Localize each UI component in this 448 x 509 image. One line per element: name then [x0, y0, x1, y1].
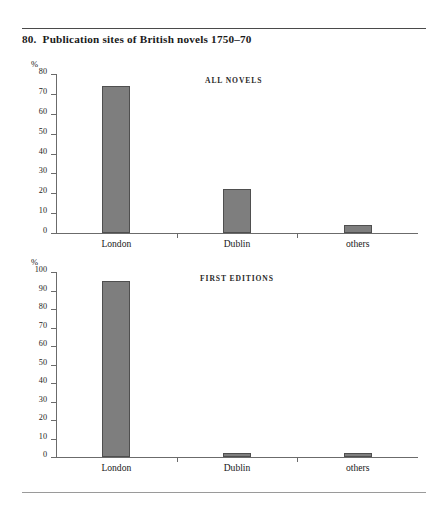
y-tick: 0	[51, 457, 56, 458]
bar-london	[102, 86, 130, 233]
x-tick-label-others: others	[346, 463, 369, 473]
bar-dublin	[223, 189, 251, 233]
figure-title: Publication sites of British novels 1750…	[43, 33, 252, 45]
chart-all-novels: % ALL NOVELS 01020304050607080LondonDubl…	[0, 60, 448, 240]
y-axis-first	[56, 272, 57, 458]
y-tick: 70	[51, 94, 56, 95]
figure-page: 80.Publication sites of British novels 1…	[0, 0, 448, 509]
y-tick: 40	[51, 383, 56, 384]
y-tick-label: 20	[39, 187, 47, 195]
y-tick: 50	[51, 134, 56, 135]
y-tick: 70	[51, 328, 56, 329]
header-divider	[22, 28, 426, 29]
bar-others	[344, 453, 372, 457]
figure-caption: 80.Publication sites of British novels 1…	[22, 33, 426, 45]
y-tick-label: 30	[39, 167, 47, 175]
y-tick-label: 80	[39, 303, 47, 311]
y-tick-label: 30	[39, 396, 47, 404]
x-tick	[297, 234, 298, 238]
bar-london	[102, 281, 130, 457]
y-tick-label: 100	[35, 266, 47, 274]
x-tick	[177, 234, 178, 238]
y-tick: 60	[51, 114, 56, 115]
y-tick-label: 60	[39, 108, 47, 116]
y-tick-label: 10	[39, 433, 47, 441]
y-tick-label: 90	[39, 285, 47, 293]
y-tick-label: 10	[39, 207, 47, 215]
x-tick-label-london: London	[101, 463, 131, 473]
x-tick	[297, 458, 298, 462]
y-tick-label: 50	[39, 359, 47, 367]
y-tick: 90	[51, 291, 56, 292]
bar-others	[344, 225, 372, 233]
y-tick-label: 0	[43, 451, 47, 459]
y-tick-label: 60	[39, 340, 47, 348]
y-tick: 80	[51, 309, 56, 310]
bar-dublin	[223, 453, 251, 457]
y-tick: 30	[51, 402, 56, 403]
y-tick: 0	[51, 233, 56, 234]
y-tick: 100	[51, 272, 56, 273]
y-tick: 20	[51, 420, 56, 421]
y-tick: 80	[51, 74, 56, 75]
x-tick-label-london: London	[101, 239, 131, 249]
plot-area-all: 01020304050607080LondonDublinothers	[56, 74, 418, 234]
y-tick: 50	[51, 365, 56, 366]
x-tick-label-dublin: Dublin	[224, 239, 251, 249]
y-tick-label: 70	[39, 88, 47, 96]
y-tick: 60	[51, 346, 56, 347]
plot-area-first: 0102030405060708090100LondonDublinothers	[56, 272, 418, 458]
y-tick-label: 20	[39, 414, 47, 422]
footer-divider	[22, 492, 426, 493]
chart-first-editions: % FIRST EDITIONS 0102030405060708090100L…	[0, 258, 448, 464]
x-tick-label-others: others	[346, 239, 369, 249]
y-tick-label: 50	[39, 128, 47, 136]
x-axis-first	[56, 457, 418, 458]
y-tick-label: 40	[39, 377, 47, 385]
y-tick: 10	[51, 439, 56, 440]
x-tick	[177, 458, 178, 462]
y-tick: 10	[51, 213, 56, 214]
y-axis-all	[56, 74, 57, 234]
y-axis-unit-all: %	[31, 60, 38, 69]
y-tick-label: 80	[39, 68, 47, 76]
x-axis-all	[56, 233, 418, 234]
y-tick-label: 70	[39, 322, 47, 330]
y-tick: 30	[51, 173, 56, 174]
x-tick-label-dublin: Dublin	[224, 463, 251, 473]
y-tick: 20	[51, 193, 56, 194]
figure-number: 80.	[22, 33, 37, 45]
y-tick: 40	[51, 154, 56, 155]
y-tick-label: 40	[39, 148, 47, 156]
y-tick-label: 0	[43, 227, 47, 235]
